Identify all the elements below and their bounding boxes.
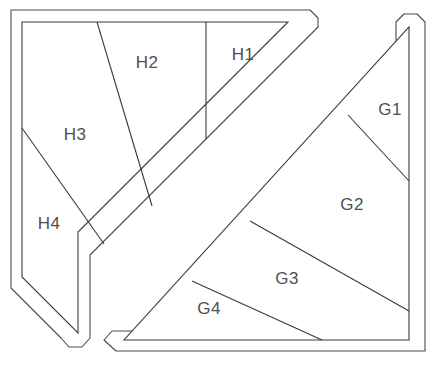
diagram-canvas: H1 H2 H3 H4 G1 G2 G3 G4 [0, 0, 443, 373]
region-label-h2: H2 [136, 53, 159, 72]
region-label-h1: H1 [232, 45, 255, 64]
region-label-h4: H4 [38, 214, 61, 233]
diagram-svg: H1 H2 H3 H4 G1 G2 G3 G4 [0, 0, 443, 373]
region-label-g1: G1 [378, 100, 402, 119]
region-label-g4: G4 [197, 299, 221, 318]
region-label-g2: G2 [340, 195, 364, 214]
region-label-g3: G3 [275, 269, 299, 288]
region-label-h3: H3 [64, 125, 87, 144]
